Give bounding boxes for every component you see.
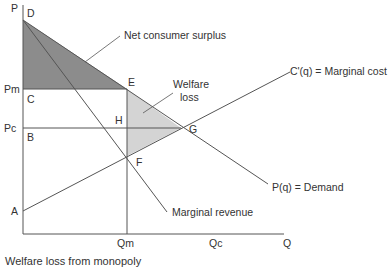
welfare-loss-label-line2: loss — [180, 91, 199, 103]
pm-label: Pm — [4, 83, 20, 95]
point-h-label: H — [115, 114, 123, 126]
point-g-label: G — [189, 123, 197, 135]
point-c-label: C — [27, 93, 35, 105]
x-axis-label: Q — [283, 237, 291, 249]
point-e-label: E — [128, 76, 135, 88]
y-axis-label: P — [11, 2, 18, 14]
monopoly-diagram: P Q D E C H B G F A Pm Pc Qm Qc C'(q) = … — [0, 0, 391, 272]
pc-label: Pc — [4, 122, 16, 134]
point-d-label: D — [27, 7, 35, 19]
point-f-label: F — [136, 156, 142, 168]
consumer-surplus-leader — [85, 36, 120, 62]
welfare-loss-area — [127, 89, 181, 156]
point-a-label: A — [11, 205, 18, 217]
point-b-label: B — [27, 131, 34, 143]
welfare-loss-label-line1: Welfare — [173, 78, 209, 90]
qc-label: Qc — [209, 237, 222, 249]
marginal-cost-curve — [23, 72, 290, 211]
consumer-surplus-label: Net consumer surplus — [124, 29, 226, 41]
marginal-revenue-label: Marginal revenue — [172, 206, 253, 218]
marginal-cost-label: C'(q) = Marginal cost — [290, 65, 387, 77]
figure-caption: Welfare loss from monopoly — [5, 255, 141, 267]
qm-label: Qm — [117, 237, 134, 249]
demand-label: P(q) = Demand — [272, 181, 344, 193]
demand-curve — [23, 20, 268, 184]
